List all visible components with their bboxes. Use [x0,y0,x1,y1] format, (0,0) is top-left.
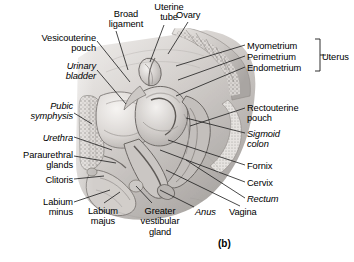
label-clitoris: Clitoris [20,175,73,185]
label-paraurethral-glands: Paraurethral glands [0,150,73,171]
label-cervix: Cervix [247,178,287,188]
figure-caption: (b) [218,238,231,249]
label-sigmoid-colon: Sigmoid colon [247,129,299,150]
label-vesicouterine-pouch: Vesicouterine pouch [12,33,96,54]
label-myometrium: Myometrium [247,41,313,51]
label-endometrium: Endometrium [247,63,315,73]
label-urinary-bladder: Urinary bladder [28,61,96,82]
label-fornix: Fornix [247,161,287,171]
label-labium-minus: Labium minus [18,197,73,218]
label-greater-vestibular-gland: Greater vestibular gland [130,206,190,237]
label-rectum: Rectum [247,194,291,204]
label-broad-ligament: Broad ligament [101,9,151,30]
label-anus: Anus [195,207,227,217]
label-uterus: Uterus [322,52,354,62]
label-vagina: Vagina [229,207,271,217]
label-rectouterine-pouch: Rectouterine pouch [247,103,321,124]
label-labium-majus: Labium majus [78,206,128,227]
label-urethra: Urethra [16,133,73,143]
label-perimetrium: Perimetrium [247,52,313,62]
label-pubic-symphysis: Pubic symphysis [8,101,73,122]
label-ovary: Ovary [176,10,216,20]
